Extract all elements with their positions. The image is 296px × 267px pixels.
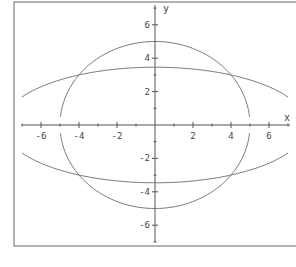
x-tick-label: -6: [36, 131, 47, 141]
y-tick-label: -6: [139, 220, 150, 230]
x-tick-label: 2: [190, 131, 195, 141]
y-tick-label: 2: [145, 87, 150, 97]
y-tick-label: 4: [145, 53, 150, 63]
x-tick-label: -4: [74, 131, 85, 141]
x-tick-label: 6: [266, 131, 271, 141]
y-tick-label: -4: [139, 187, 150, 197]
y-tick-label: 6: [145, 20, 150, 30]
y-axis-label: y: [163, 3, 169, 14]
y-tick-label: -2: [139, 153, 150, 163]
plot-canvas: -6-4-2246642-2-4-6 y x: [0, 0, 296, 267]
x-axis-label: x: [284, 112, 290, 123]
x-tick-label: 4: [228, 131, 233, 141]
x-tick-label: -2: [112, 131, 123, 141]
